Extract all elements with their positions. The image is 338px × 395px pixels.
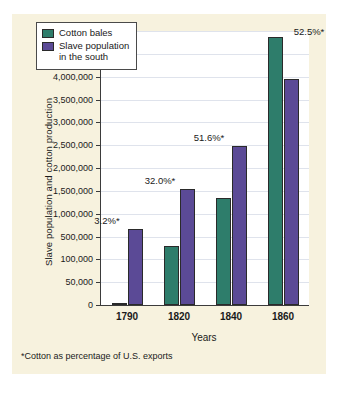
bar-cotton-bales-1840	[216, 198, 231, 305]
bar-slave-population-1860	[284, 79, 299, 305]
bar-cotton-bales-1790	[112, 303, 127, 305]
y-axis-tick	[96, 282, 101, 283]
x-axis-title: Years	[100, 332, 308, 343]
y-axis-tick-label: 3,000,000	[53, 118, 93, 127]
x-axis-tick-label-1860: 1860	[272, 312, 294, 322]
y-axis-tick	[96, 259, 101, 260]
chart-figure: Slave population and cotton production 0…	[12, 14, 326, 374]
bar-slave-population-1790	[128, 229, 143, 305]
plot-area: 050,000100,000500,0001,000,0001,500,0002…	[100, 31, 309, 306]
legend-item-label: Slave population in the south	[59, 40, 129, 63]
legend-item: Cotton bales	[42, 27, 129, 39]
bar-cotton-bales-1860	[268, 37, 283, 305]
y-axis-tick	[96, 305, 101, 306]
y-axis-tick-label: 50,000	[65, 278, 93, 287]
percentage-annotation-1820: 32.0%*	[145, 176, 176, 186]
x-axis-tick-label-1820: 1820	[168, 312, 190, 322]
y-axis-tick-label: 1,500,000	[53, 186, 93, 195]
y-axis-tick-label: 100,000	[60, 255, 93, 264]
bar-slave-population-1840	[232, 146, 247, 305]
legend-swatch-icon	[42, 29, 54, 38]
bar-cotton-bales-1820	[164, 246, 179, 305]
y-axis-tick-label: 3,500,000	[53, 95, 93, 104]
y-axis-tick	[96, 191, 101, 192]
chart-footnote: *Cotton as percentage of U.S. exports	[21, 351, 173, 361]
legend-swatch-icon	[42, 42, 54, 51]
percentage-annotation-1860: 52.5%*	[294, 27, 325, 37]
chart-legend: Cotton balesSlave population in the sout…	[36, 22, 137, 70]
percentage-annotation-1840: 51.6%*	[194, 132, 225, 142]
y-axis-tick-label: 0	[88, 301, 93, 310]
y-axis-tick-label: 4,000,000	[53, 72, 93, 81]
y-axis-tick	[96, 145, 101, 146]
y-axis-tick-label: 2,500,000	[53, 141, 93, 150]
y-axis-tick	[96, 77, 101, 78]
x-axis-tick-label-1840: 1840	[220, 312, 242, 322]
y-axis-tick-label: 2,000,000	[53, 164, 93, 173]
y-axis-tick	[96, 122, 101, 123]
y-axis-tick	[96, 168, 101, 169]
legend-item-label: Cotton bales	[59, 27, 112, 39]
y-axis-tick	[96, 100, 101, 101]
percentage-annotation-1790: 3.2%*	[94, 216, 119, 226]
x-axis-tick-label-1790: 1790	[116, 312, 138, 322]
y-axis-tick-label: 500,000	[60, 232, 93, 241]
y-axis-tick	[96, 237, 101, 238]
bar-slave-population-1820	[180, 189, 195, 305]
legend-item: Slave population in the south	[42, 40, 129, 63]
y-axis-tick-label: 1,000,000	[53, 209, 93, 218]
